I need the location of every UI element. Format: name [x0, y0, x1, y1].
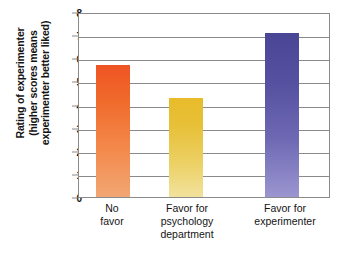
- y-axis-title-line-1: Rating of experimenter: [14, 27, 26, 138]
- x-category-line: Favor for: [237, 202, 333, 215]
- x-category-label-favor-for-experimenter: Favor for experimenter: [237, 202, 333, 228]
- y-axis-title: Rating of experimenter (higher scores me…: [6, 3, 60, 163]
- x-category-line: experimenter: [237, 215, 333, 228]
- plot-area: [78, 13, 330, 198]
- y-axis-title-line-3: experimenter better liked): [39, 21, 51, 145]
- x-category-line: psychology: [143, 215, 231, 228]
- x-category-line: Favor for: [143, 202, 231, 215]
- x-category-label-favor-for-psychology-department: Favor for psychology department: [143, 202, 231, 242]
- bar-favor-for-psychology-department: [169, 98, 203, 198]
- bar-chart: Rating of experimenter (higher scores me…: [0, 0, 340, 254]
- bar-favor-for-experimenter: [265, 33, 299, 197]
- x-category-line: department: [143, 228, 231, 241]
- bar-no-favor: [96, 65, 130, 197]
- y-axis-title-line-2: (higher scores means: [27, 30, 39, 136]
